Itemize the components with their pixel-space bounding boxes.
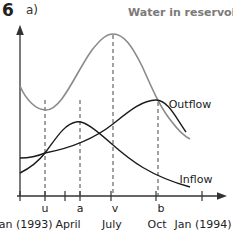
tick-label-b: b xyxy=(158,202,165,215)
reservoir-chart: Water in reservoir Outflow Inflow u a v … xyxy=(0,0,233,236)
tick-label-april: April xyxy=(55,218,80,231)
tick-label-july: July xyxy=(101,218,122,231)
label-water: Water in reservoir xyxy=(128,6,233,19)
tick-label-jan1994: Jan (1994) xyxy=(173,218,231,231)
tick-label-oct: Oct xyxy=(147,218,167,231)
dashed-guides xyxy=(45,35,158,196)
tick-label-v: v xyxy=(112,202,119,215)
label-inflow: Inflow xyxy=(180,173,213,186)
tick-label-u: u xyxy=(42,202,49,215)
label-outflow: Outflow xyxy=(169,98,212,111)
tick-label-a: a xyxy=(77,202,84,215)
tick-label-jan1993: Jan (1993) xyxy=(0,218,53,231)
